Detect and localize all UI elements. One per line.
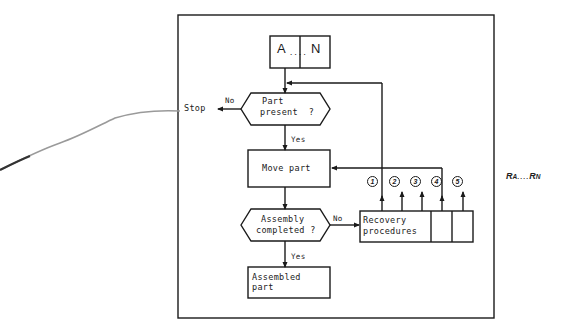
resource-range-label: RA....RN — [506, 164, 540, 183]
recovery-path-1-marker: 1 — [367, 176, 378, 187]
stop-label: Stop — [184, 103, 206, 114]
assembly-label-2: completed ? — [256, 225, 316, 236]
recovery-path-5-marker: 5 — [452, 176, 463, 187]
assembly-label-1: Assembly — [261, 214, 304, 225]
part-present-label-1: Part — [262, 96, 284, 107]
part-present-yes-label: Yes — [291, 134, 305, 145]
recovery-path-3-marker: 3 — [410, 176, 421, 187]
move-part-label: Move part — [262, 163, 311, 174]
flowchart-diagram: A .... N Part present ? Stop No Yes Move… — [0, 0, 574, 335]
recovery-label-1: Recovery — [363, 215, 406, 226]
part-present-no-label: No — [225, 95, 235, 106]
input-block-n: N — [311, 43, 320, 54]
assembly-yes-label: Yes — [291, 251, 305, 262]
recovery-path-2-marker: 2 — [389, 176, 400, 187]
assembly-no-label: No — [333, 213, 343, 224]
part-present-label-2: present ? — [260, 107, 314, 118]
recovery-path-4-marker: 4 — [431, 176, 442, 187]
scribble-mark — [0, 111, 180, 170]
outer-frame — [178, 15, 494, 318]
input-block-dots: .... — [289, 48, 307, 59]
recovery-label-2: procedures — [363, 226, 417, 237]
input-block-a: A — [277, 43, 286, 54]
assembled-part-label-2: part — [252, 282, 274, 293]
